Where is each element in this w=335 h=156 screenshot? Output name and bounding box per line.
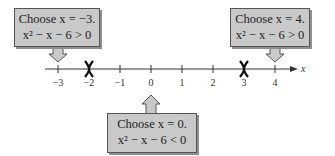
axis-arrow-icon xyxy=(290,66,298,72)
tick-label-4: 4 xyxy=(265,77,285,88)
tick-label-neg2: −2 xyxy=(79,77,99,88)
right-callout-arrow-icon xyxy=(266,46,284,62)
middle-callout-inequality: x² − x − 6 < 0 xyxy=(108,132,196,148)
tick-label-neg3: −3 xyxy=(48,77,68,88)
tick-label-neg1: −1 xyxy=(110,77,130,88)
tick-label-0: 0 xyxy=(141,77,161,88)
right-callout-choice: Choose x = 4. xyxy=(231,11,309,27)
middle-callout-choice: Choose x = 0. xyxy=(108,116,196,132)
left-callout-inequality: x² − x − 6 > 0 xyxy=(15,27,99,43)
left-callout-choice: Choose x = −3. xyxy=(15,11,99,27)
tick-label-3: 3 xyxy=(234,77,254,88)
axis-variable-label: x xyxy=(301,63,305,74)
tick-label-2: 2 xyxy=(203,77,223,88)
left-callout-box: Choose x = −3. x² − x − 6 > 0 xyxy=(14,8,100,47)
left-callout-arrow-icon xyxy=(49,46,67,62)
middle-callout-arrow-icon xyxy=(142,95,160,114)
right-callout-box: Choose x = 4. x² − x − 6 > 0 xyxy=(230,8,310,47)
right-callout-inequality: x² − x − 6 > 0 xyxy=(231,27,309,43)
tick-label-1: 1 xyxy=(172,77,192,88)
middle-callout-box: Choose x = 0. x² − x − 6 < 0 xyxy=(107,113,197,153)
